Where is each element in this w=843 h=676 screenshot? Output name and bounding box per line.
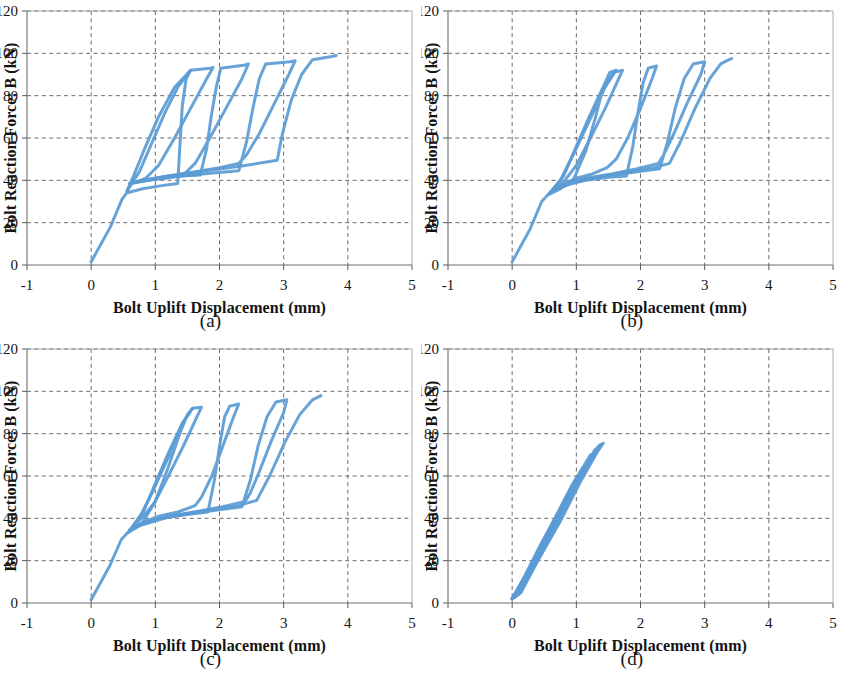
y-tick-label: 120 <box>421 3 439 19</box>
figure-grid: 020406080100120-1012345Bolt Uplift Displ… <box>0 0 843 676</box>
y-tick-label: 120 <box>421 341 439 357</box>
panel-c: 020406080100120-1012345Bolt Uplift Displ… <box>0 338 421 676</box>
x-tick-label: 0 <box>87 615 95 631</box>
x-tick-label: 5 <box>408 277 416 293</box>
panel-a-canvas: 020406080100120-1012345Bolt Uplift Displ… <box>0 3 416 317</box>
panel-b-plot: 020406080100120-1012345Bolt Uplift Displ… <box>421 0 843 338</box>
x-tick-label: 1 <box>152 277 160 293</box>
panel-b-canvas: 020406080100120-1012345Bolt Uplift Displ… <box>421 3 837 317</box>
x-tick-label: 5 <box>408 615 416 631</box>
panel-c-canvas: 020406080100120-1012345Bolt Uplift Displ… <box>0 341 416 655</box>
x-tick-label: -1 <box>21 615 34 631</box>
y-axis-title: Bolt Reaction Force: B (kN) <box>2 381 20 572</box>
panel-a-plot: 020406080100120-1012345Bolt Uplift Displ… <box>0 0 421 338</box>
x-tick-label: -1 <box>442 615 455 631</box>
x-tick-label: 3 <box>701 615 709 631</box>
x-tick-label: 0 <box>508 615 516 631</box>
panel-a: 020406080100120-1012345Bolt Uplift Displ… <box>0 0 421 338</box>
y-tick-label: 0 <box>432 257 440 273</box>
x-tick-label: -1 <box>21 277 34 293</box>
x-tick-label: 5 <box>829 277 837 293</box>
x-tick-label: 1 <box>573 615 581 631</box>
x-tick-label: 5 <box>829 615 837 631</box>
panel-d-canvas: 020406080100120-1012345Bolt Uplift Displ… <box>421 341 837 655</box>
y-tick-label: 0 <box>11 595 19 611</box>
y-tick-label: 0 <box>11 257 19 273</box>
x-tick-label: 2 <box>216 277 224 293</box>
panel-b-caption: (b) <box>421 310 843 332</box>
x-tick-label: 4 <box>344 615 352 631</box>
x-tick-label: 2 <box>637 615 645 631</box>
x-tick-label: 3 <box>280 615 288 631</box>
x-tick-label: 1 <box>152 615 160 631</box>
x-tick-label: 2 <box>637 277 645 293</box>
x-tick-label: 4 <box>765 277 773 293</box>
x-tick-label: 0 <box>508 277 516 293</box>
y-axis-title: Bolt Reaction Force: B (kN) <box>423 381 441 572</box>
y-axis-title: Bolt Reaction Force: B (kN) <box>2 43 20 234</box>
y-tick-label: 120 <box>0 341 18 357</box>
x-tick-label: 3 <box>701 277 709 293</box>
x-tick-label: 3 <box>280 277 288 293</box>
data-curve <box>512 443 603 599</box>
x-tick-label: 1 <box>573 277 581 293</box>
panel-b: 020406080100120-1012345Bolt Uplift Displ… <box>421 0 843 338</box>
panel-d-caption: (d) <box>421 648 843 670</box>
x-tick-label: 0 <box>87 277 95 293</box>
y-tick-label: 0 <box>432 595 440 611</box>
x-tick-label: 2 <box>216 615 224 631</box>
y-tick-label: 120 <box>0 3 18 19</box>
data-curve <box>512 70 616 262</box>
panel-c-plot: 020406080100120-1012345Bolt Uplift Displ… <box>0 338 421 676</box>
panel-a-caption: (a) <box>0 310 421 332</box>
panel-d: 020406080100120-1012345Bolt Uplift Displ… <box>421 338 843 676</box>
panel-d-plot: 020406080100120-1012345Bolt Uplift Displ… <box>421 338 843 676</box>
panel-c-caption: (c) <box>0 648 421 670</box>
y-axis-title: Bolt Reaction Force: B (kN) <box>423 43 441 234</box>
x-tick-label: -1 <box>442 277 455 293</box>
x-tick-label: 4 <box>765 615 773 631</box>
x-tick-label: 4 <box>344 277 352 293</box>
